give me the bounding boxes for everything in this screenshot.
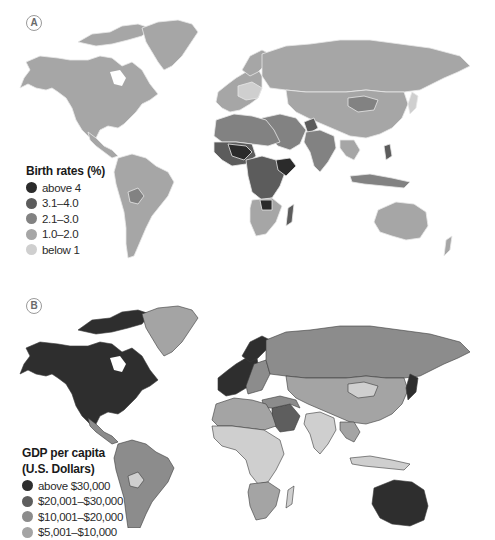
legend-item: above 4 <box>26 180 105 196</box>
legend-item: below 1 <box>26 242 105 258</box>
region-north-america <box>20 56 158 138</box>
legend-item-label: $5,001–$10,000 <box>38 526 117 538</box>
legend-item-label: above 4 <box>42 182 81 194</box>
legend-swatch-icon <box>22 480 33 491</box>
region-australia <box>374 202 428 240</box>
region-japan <box>408 92 418 114</box>
region-central-asia <box>286 376 408 424</box>
legend-item-label: $10,001–$20,000 <box>38 511 123 523</box>
legend-item-label: above $30,000 <box>38 480 110 492</box>
region-middle-east <box>262 396 300 408</box>
legend-swatch-icon <box>26 213 37 224</box>
panel-label-a: A <box>26 15 42 31</box>
legend-swatch-icon <box>26 198 37 209</box>
region-russia <box>262 40 470 92</box>
region-russia <box>266 326 470 378</box>
region-madagascar <box>286 486 294 508</box>
region-arctic-canada <box>78 24 150 46</box>
region-southeast-asia <box>340 140 360 160</box>
region-arctic-canada <box>78 310 150 334</box>
legend-item: 3.1–4.0 <box>26 196 105 212</box>
legend-title: Birth rates (%) <box>26 164 105 178</box>
region-japan <box>406 374 418 400</box>
region-north-america <box>20 342 158 424</box>
region-indonesia <box>350 174 410 188</box>
legend-item: $20,001–$30,000 <box>22 494 123 510</box>
region-greenland <box>142 20 198 70</box>
region-west-central-africa <box>212 426 284 484</box>
panel-label-b: B <box>26 298 42 314</box>
legend-swatch-icon <box>22 511 33 522</box>
legend-title-line2: (U.S. Dollars) <box>22 462 123 476</box>
legend-swatch-icon <box>22 496 33 507</box>
legend-item-label: 1.0–2.0 <box>42 228 78 240</box>
legend-item: $5,001–$10,000 <box>22 525 123 540</box>
legend-item: above $30,000 <box>22 478 123 494</box>
legend-swatch-icon <box>26 229 37 240</box>
legend-item-label: $20,001–$30,000 <box>38 495 123 507</box>
region-saudi-arabia <box>272 404 300 432</box>
legend-item-label: 3.1–4.0 <box>42 197 78 209</box>
region-madagascar <box>286 204 294 226</box>
region-new-zealand <box>444 236 452 256</box>
region-central-america <box>88 132 118 158</box>
region-south-america <box>114 154 174 258</box>
region-southeast-asia <box>340 422 360 442</box>
legend-swatch-icon <box>26 182 37 193</box>
region-greenland <box>142 306 198 356</box>
legend-item: 1.0–2.0 <box>26 227 105 243</box>
map-panel-birth-rates: A Birth rates (%) above 4 3.1–4.0 2.1–3.… <box>0 0 495 262</box>
legend-item: 2.1–3.0 <box>26 211 105 227</box>
legend-item-label: 2.1–3.0 <box>42 213 78 225</box>
region-australia <box>372 480 428 526</box>
region-indonesia <box>350 456 410 470</box>
legend-birth-rates: Birth rates (%) above 4 3.1–4.0 2.1–3.0 … <box>26 164 105 258</box>
legend-item-label: below 1 <box>42 244 80 256</box>
region-india <box>304 412 336 454</box>
region-southern-africa <box>248 482 280 520</box>
legend-title-line1: GDP per capita <box>22 446 123 460</box>
region-mexico <box>88 418 118 444</box>
legend-item: $10,001–$20,000 <box>22 509 123 525</box>
region-zambia <box>260 200 272 210</box>
region-india <box>304 130 336 172</box>
region-philippines <box>384 144 392 160</box>
legend-swatch-icon <box>22 527 33 538</box>
legend-gdp-per-capita: GDP per capita (U.S. Dollars) above $30,… <box>22 446 123 540</box>
legend-swatch-icon <box>26 244 37 255</box>
